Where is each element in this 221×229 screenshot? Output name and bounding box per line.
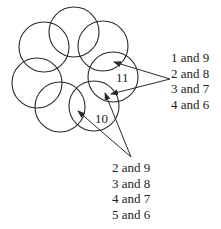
- circle-top: [49, 7, 99, 57]
- circle-top-left: [19, 22, 69, 72]
- region-label-11: 11: [116, 70, 129, 86]
- pair-label: 3 and 7: [171, 81, 209, 97]
- arrow-to-bottom-upper: [105, 93, 131, 157]
- pair-label: 2 and 9: [112, 160, 150, 176]
- circle-right: [88, 52, 138, 102]
- circle-diagram: [0, 0, 221, 229]
- right-pair-list: 1 and 9 2 and 8 3 and 7 4 and 6: [171, 50, 209, 112]
- circle-bottom: [69, 81, 119, 131]
- pair-label: 1 and 9: [171, 50, 209, 66]
- pair-label: 3 and 8: [112, 176, 150, 192]
- pair-label: 5 and 6: [112, 207, 150, 223]
- pair-label: 4 and 7: [112, 191, 150, 207]
- pair-label: 4 and 6: [171, 97, 209, 113]
- bottom-pair-list: 2 and 9 3 and 8 4 and 7 5 and 6: [112, 160, 150, 222]
- region-label-10: 10: [95, 111, 108, 127]
- pair-label: 2 and 8: [171, 66, 209, 82]
